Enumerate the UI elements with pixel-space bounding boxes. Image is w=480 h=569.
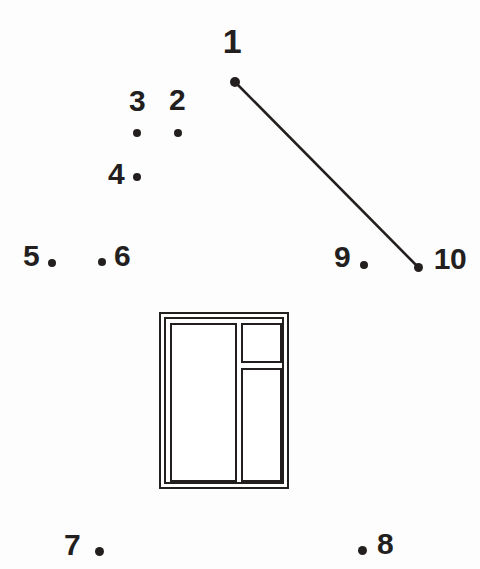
window-pane-left-tall (170, 323, 237, 482)
point-dot-8[interactable] (358, 546, 367, 555)
window-pane-right-top (241, 323, 282, 363)
window-frame-outer (159, 312, 289, 489)
point-label-10: 10 (434, 244, 466, 274)
window-pane-right-tall (241, 368, 282, 482)
point-dot-1[interactable] (230, 77, 240, 87)
point-label-9: 9 (334, 242, 350, 272)
point-dot-9[interactable] (360, 261, 368, 269)
point-dot-7[interactable] (95, 547, 104, 556)
point-label-4: 4 (108, 159, 124, 189)
point-label-5: 5 (23, 241, 39, 271)
point-label-8: 8 (377, 529, 393, 559)
point-dot-4[interactable] (133, 173, 141, 181)
point-label-3: 3 (129, 86, 145, 116)
point-label-2: 2 (169, 85, 185, 115)
point-dot-3[interactable] (133, 129, 141, 137)
point-dot-10[interactable] (414, 263, 423, 272)
figure-canvas: 1 2 3 4 5 6 7 8 9 10 (0, 0, 480, 569)
point-dot-5[interactable] (48, 259, 56, 267)
point-dot-6[interactable] (98, 258, 106, 266)
point-label-1: 1 (223, 24, 241, 58)
connector-line-1-to-10 (235, 82, 418, 267)
window-frame-inner (164, 317, 284, 484)
point-dot-2[interactable] (174, 129, 182, 137)
point-label-7: 7 (64, 530, 80, 560)
point-label-6: 6 (114, 241, 130, 271)
